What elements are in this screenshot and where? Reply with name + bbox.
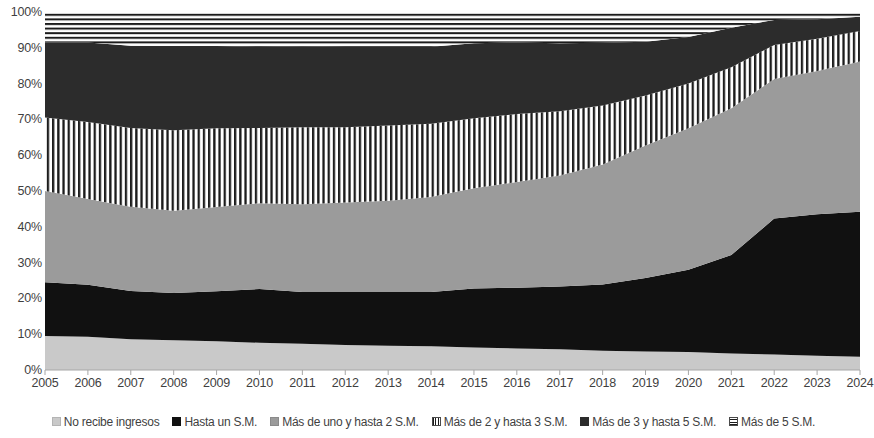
- y-tick-label: 40%: [2, 220, 42, 234]
- y-tick-label: 20%: [2, 291, 42, 305]
- legend-item[interactable]: Más de 5 S.M.: [729, 416, 815, 428]
- plot-svg: [0, 0, 867, 396]
- x-tick-label: 2016: [503, 376, 530, 390]
- y-tick-label: 10%: [2, 327, 42, 341]
- x-axis-labels: 2005200620072008200920102011201220132014…: [0, 376, 867, 398]
- legend-item-label: Más de 2 y hasta 3 S.M.: [444, 416, 568, 428]
- x-tick-marks: [45, 370, 860, 375]
- x-tick-label: 2020: [675, 376, 702, 390]
- solid-light-gray-swatch: [52, 417, 61, 426]
- legend-item[interactable]: Hasta un S.M.: [172, 416, 257, 428]
- legend-item-label: Más de 3 y hasta 5 S.M.: [592, 416, 716, 428]
- y-tick-label: 60%: [2, 148, 42, 162]
- axis-lines: [45, 370, 860, 375]
- y-tick-label: 30%: [2, 256, 42, 270]
- y-tick-label: 100%: [2, 5, 42, 19]
- x-tick-label: 2010: [246, 376, 273, 390]
- legend-item[interactable]: Más de 2 y hasta 3 S.M.: [432, 416, 568, 428]
- y-tick-label: 0%: [2, 363, 42, 377]
- x-tick-label: 2015: [460, 376, 487, 390]
- x-tick-label: 2009: [203, 376, 230, 390]
- legend-item[interactable]: Más de 3 y hasta 5 S.M.: [580, 416, 716, 428]
- x-tick-label: 2007: [117, 376, 144, 390]
- horizontal-stripe-swatch: [729, 417, 738, 426]
- x-tick-label: 2013: [375, 376, 402, 390]
- x-tick-label: 2019: [632, 376, 659, 390]
- x-tick-label: 2008: [160, 376, 187, 390]
- x-tick-label: 2006: [74, 376, 101, 390]
- legend-item[interactable]: No recibe ingresos: [52, 416, 160, 428]
- y-tick-label: 80%: [2, 77, 42, 91]
- x-tick-label: 2014: [418, 376, 445, 390]
- y-tick-label: 90%: [2, 41, 42, 55]
- x-tick-label: 2023: [804, 376, 831, 390]
- series-layers: [45, 12, 860, 370]
- plot-area: 0%10%20%30%40%50%60%70%80%90%100%: [0, 0, 867, 396]
- y-tick-label: 50%: [2, 184, 42, 198]
- x-tick-label: 2011: [289, 376, 315, 390]
- chart-legend: No recibe ingresosHasta un S.M.Más de un…: [0, 405, 867, 438]
- x-tick-label: 2024: [846, 376, 873, 390]
- solid-black-swatch: [172, 417, 181, 426]
- solid-dark-gray-swatch: [580, 417, 589, 426]
- y-tick-label: 70%: [2, 112, 42, 126]
- y-axis-labels: 0%10%20%30%40%50%60%70%80%90%100%: [0, 0, 42, 396]
- x-tick-label: 2017: [546, 376, 573, 390]
- solid-mid-gray-swatch: [270, 417, 279, 426]
- legend-item[interactable]: Más de uno y hasta 2 S.M.: [270, 416, 419, 428]
- legend-item-label: Más de 5 S.M.: [741, 416, 815, 428]
- x-tick-label: 2021: [718, 376, 745, 390]
- x-tick-label: 2005: [31, 376, 58, 390]
- legend-item-label: Más de uno y hasta 2 S.M.: [282, 416, 419, 428]
- x-tick-label: 2012: [332, 376, 359, 390]
- legend-item-label: Hasta un S.M.: [184, 416, 257, 428]
- vertical-stripe-swatch: [432, 417, 441, 426]
- x-tick-label: 2018: [589, 376, 616, 390]
- legend-item-label: No recibe ingresos: [64, 416, 160, 428]
- x-tick-label: 2022: [761, 376, 788, 390]
